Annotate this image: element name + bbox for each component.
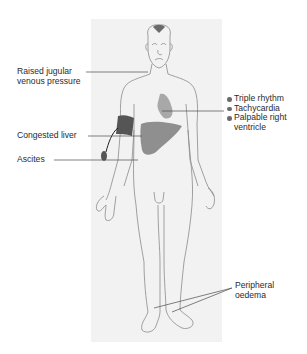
bullet-icon [227,116,232,121]
body-outline [96,25,214,332]
bp-tube [106,128,118,152]
cardiac-signs-list: Triple rhythm Tachycardia Palpable right… [226,94,287,132]
label-jvp-line2: venous pressure [17,76,81,86]
human-figure-illustration [0,0,307,354]
heart-shape [157,94,172,119]
label-congested-liver: Congested liver [17,131,77,141]
label-oedema-line2: oedema [235,290,266,300]
list-item-palpable-rv: Palpable right ventricle [226,113,287,132]
label-raised-jvp: Raised jugular venous pressure [17,67,81,86]
bp-cuff-icon [116,115,134,136]
face [152,44,166,61]
label-jvp-line1: Raised jugular [17,66,72,76]
label-ascites: Ascites [17,155,45,165]
label-peripheral-oedema: Peripheral oedema [235,281,274,300]
label-oedema-line1: Peripheral [235,280,274,290]
bullet-icon [227,97,232,102]
bullet-icon [227,107,232,112]
liver-shape [140,122,182,155]
leader-lines [54,72,232,312]
bp-bulb-icon [101,151,107,161]
hair [153,25,165,33]
